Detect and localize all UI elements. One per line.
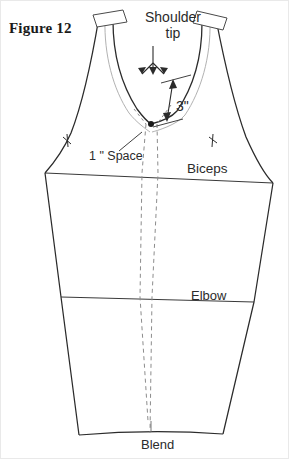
figure-page: Figure 12 Shoulder tip 3" 1 " Space Bice…	[0, 0, 289, 459]
hem-blend-line	[79, 432, 223, 435]
dashed-guide-left	[140, 124, 148, 421]
right-outer-cap-curve	[216, 19, 273, 183]
left-side-seam	[45, 173, 79, 435]
left-shoulder-cap	[93, 10, 127, 27]
construction-lines	[45, 173, 273, 302]
sleeve-cap-curves	[45, 17, 273, 183]
shoulder-tip-pointer-icon	[138, 46, 168, 75]
three-inch-upper-extension	[161, 75, 191, 83]
center-point-marker	[148, 121, 154, 127]
right-side-seam	[223, 183, 273, 434]
one-inch-space-label: 1 " Space	[89, 149, 143, 163]
figure-caption: Figure 12	[9, 20, 72, 37]
dashed-v-left	[134, 109, 146, 124]
notch-marks	[63, 134, 217, 147]
shoulder-tip-arrowhead-center	[149, 67, 157, 75]
biceps-line	[45, 173, 273, 183]
biceps-label: Biceps	[187, 161, 228, 176]
shoulder-tip-label-line1: Shoulder	[130, 10, 216, 26]
dashed-guide-right	[150, 124, 158, 433]
elbow-label: Elbow	[191, 289, 226, 304]
three-inch-lower-extension	[153, 119, 183, 127]
sleeve-pattern-diagram	[1, 1, 289, 459]
right-notch-icon	[209, 134, 217, 147]
sleeve-body-outline	[45, 173, 273, 435]
three-inch-label: 3"	[176, 99, 189, 115]
shoulder-tip-label: Shoulder tip	[130, 10, 216, 41]
shoulder-tip-label-line2: tip	[130, 26, 216, 42]
blend-label: Blend	[141, 438, 174, 453]
